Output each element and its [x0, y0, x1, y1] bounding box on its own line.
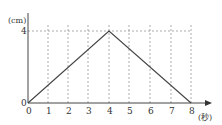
y-tick-4: 4 [21, 26, 27, 36]
x-tick-2: 2 [66, 106, 72, 116]
x-tick-4: 4 [107, 106, 113, 116]
x-tick-1: 1 [46, 106, 52, 116]
x-tick-7: 7 [169, 106, 175, 116]
grid [28, 25, 191, 103]
y-unit-label: (cm) [8, 16, 26, 25]
x-tick-8: 8 [189, 106, 195, 116]
x-tick-6: 6 [148, 106, 154, 116]
x-axis-arrow-icon [205, 100, 212, 106]
line-chart: (cm) 4 0 0 1 2 3 4 5 6 7 8 (秒) [0, 0, 222, 125]
x-tick-0: 0 [26, 106, 32, 116]
data-line [28, 31, 191, 103]
x-unit-label: (秒) [198, 112, 212, 122]
x-tick-3: 3 [86, 106, 92, 116]
x-tick-5: 5 [127, 106, 133, 116]
